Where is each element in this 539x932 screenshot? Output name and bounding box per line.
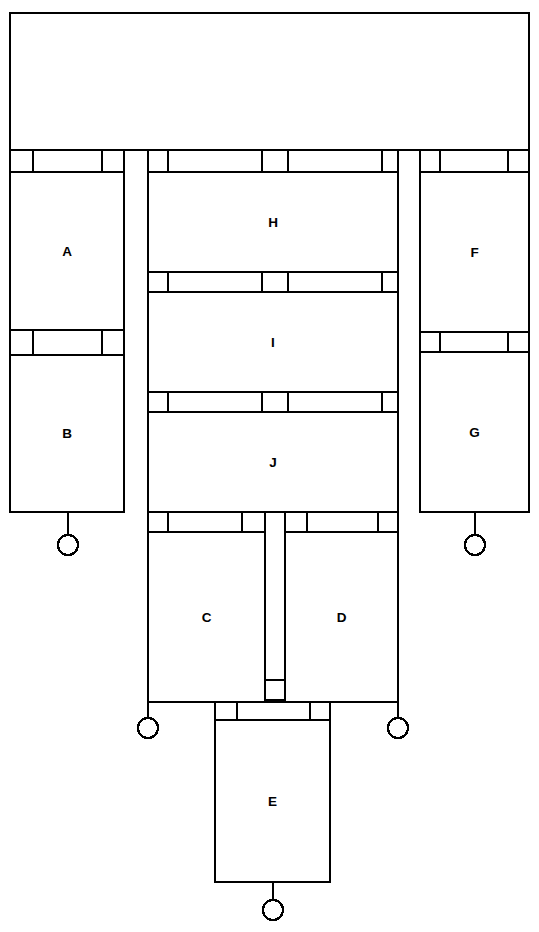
block-label-I: I — [271, 335, 275, 350]
block-label-J: J — [269, 455, 277, 470]
small-boxes-group — [265, 680, 285, 700]
block-label-G: G — [469, 425, 480, 440]
band-top-mid — [148, 150, 398, 172]
band-H-I — [148, 272, 398, 292]
block-label-D: D — [337, 610, 347, 625]
block-diagram-canvas: ABHIJCDEFG — [0, 0, 539, 932]
block-label-E: E — [268, 794, 277, 809]
terminal-E-circle — [263, 900, 283, 920]
schematic-svg: ABHIJCDEFG — [0, 0, 539, 932]
band-A-B — [10, 330, 124, 355]
terminal-G-circle — [465, 535, 485, 555]
terminal-B-circle — [58, 535, 78, 555]
cd-junction-box — [265, 680, 285, 700]
band-top-left — [10, 150, 124, 172]
block-label-B: B — [62, 426, 72, 441]
block-top — [10, 13, 529, 150]
blocks-group — [10, 13, 529, 882]
band-top-right — [420, 150, 529, 172]
band-I-J — [148, 392, 398, 412]
terminal-D-circle — [388, 718, 408, 738]
block-label-F: F — [470, 245, 478, 260]
terminal-C-circle — [138, 718, 158, 738]
band-J-C-left — [148, 512, 265, 532]
band-F-G — [420, 332, 529, 352]
block-label-C: C — [202, 610, 212, 625]
block-label-H: H — [268, 215, 278, 230]
band-J-D-right — [285, 512, 398, 532]
block-label-A: A — [62, 244, 72, 259]
